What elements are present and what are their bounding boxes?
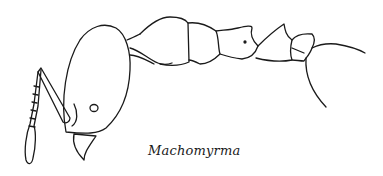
pronotum [140, 17, 189, 65]
mesonotum [188, 23, 220, 64]
spiracle [244, 41, 246, 43]
eye [90, 105, 98, 112]
mandible [73, 134, 96, 160]
antenna-scape [38, 68, 70, 123]
petiole [256, 24, 292, 61]
head-outline [64, 25, 130, 133]
postpetiole [292, 34, 314, 61]
clypeus-line [72, 104, 77, 126]
ant-illustration: Machomyrma [0, 0, 383, 176]
postpetiole-line [292, 48, 304, 53]
antenna-funiculus [25, 70, 41, 164]
neck [127, 34, 140, 40]
figure-caption: Machomyrma [148, 143, 241, 158]
gaster-lower [306, 58, 326, 107]
gaster [312, 44, 365, 53]
propodeum [216, 26, 258, 59]
